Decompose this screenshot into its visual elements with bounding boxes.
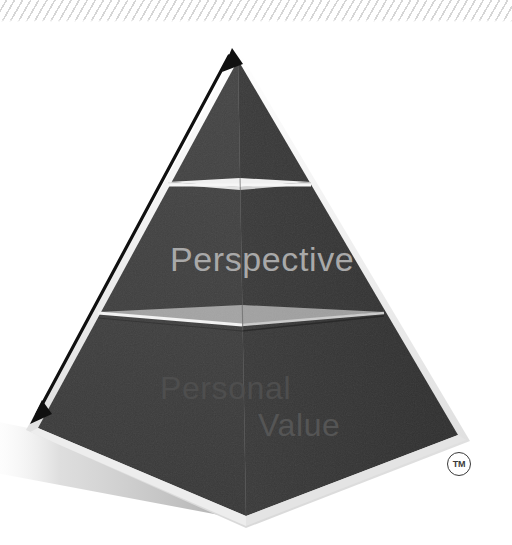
pyramid-graphic (0, 0, 512, 545)
pyramid-front-right-face (238, 60, 458, 516)
diagram-canvas: Perspective Personal Value TM (0, 0, 512, 545)
trademark-icon: TM (447, 452, 471, 476)
